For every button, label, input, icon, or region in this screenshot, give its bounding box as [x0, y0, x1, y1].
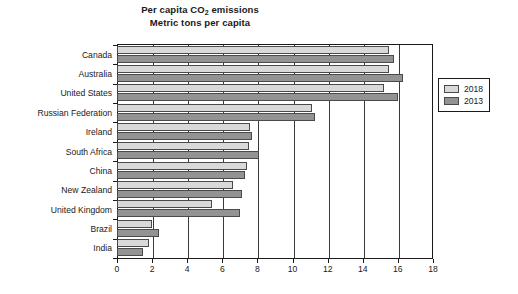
- bar-2013: [117, 229, 159, 237]
- bar-group: [117, 181, 433, 200]
- bar-2013: [117, 248, 143, 256]
- bar-group: [117, 220, 433, 239]
- bar-2013: [117, 171, 245, 179]
- title-text-post: emissions: [209, 4, 259, 15]
- x-axis-tick-label: 4: [175, 264, 199, 274]
- x-axis-tick-label: 16: [386, 264, 410, 274]
- bar-2018: [117, 104, 312, 112]
- chart-container: Per capita CO2 emissions Metric tons per…: [0, 0, 518, 294]
- bar-2018: [117, 142, 249, 150]
- x-axis-tick: [328, 259, 329, 263]
- bar-group: [117, 65, 433, 84]
- bar-2013: [117, 151, 259, 159]
- bar-2018: [117, 220, 152, 228]
- bar-2013: [117, 132, 252, 140]
- x-axis-tick: [152, 259, 153, 263]
- y-axis-label: United Kingdom: [0, 205, 112, 215]
- bar-2013: [117, 55, 394, 63]
- x-axis-tick: [398, 259, 399, 263]
- x-axis: 024681012141618: [117, 259, 433, 279]
- x-axis-tick-label: 2: [140, 264, 164, 274]
- y-axis-label: South Africa: [0, 147, 112, 157]
- x-axis-tick: [222, 259, 223, 263]
- legend-swatch-2013: [444, 97, 459, 105]
- bar-2018: [117, 200, 212, 208]
- bar-group: [117, 239, 433, 258]
- x-axis-tick: [293, 259, 294, 263]
- legend-label-2013: 2013: [464, 96, 483, 106]
- x-axis-tick-label: 6: [210, 264, 234, 274]
- y-axis-label: Canada: [0, 50, 112, 60]
- bar-2013: [117, 113, 315, 121]
- y-axis-label: Ireland: [0, 127, 112, 137]
- bar-2018: [117, 181, 233, 189]
- chart-title-line1: Per capita CO2 emissions: [141, 4, 259, 15]
- legend-item-2018: 2018: [444, 83, 483, 95]
- y-axis-category-labels: CanadaAustraliaUnited StatesRussian Fede…: [0, 45, 112, 258]
- x-axis-tick-label: 18: [421, 264, 445, 274]
- chart-subtitle: Metric tons per capita: [0, 17, 400, 29]
- x-axis-tick-label: 10: [281, 264, 305, 274]
- y-axis-label: Australia: [0, 69, 112, 79]
- bar-group: [117, 162, 433, 181]
- bar-group: [117, 104, 433, 123]
- bar-group: [117, 123, 433, 142]
- x-axis-tick: [433, 259, 434, 263]
- title-text-pre: Per capita CO: [141, 4, 205, 15]
- bar-group: [117, 84, 433, 103]
- bar-2013: [117, 74, 403, 82]
- bar-2018: [117, 123, 250, 131]
- bar-group: [117, 142, 433, 161]
- y-axis-label: United States: [0, 88, 112, 98]
- bar-group: [117, 200, 433, 219]
- bar-2013: [117, 190, 242, 198]
- bar-2018: [117, 65, 389, 73]
- bar-group: [117, 46, 433, 65]
- x-axis-tick: [187, 259, 188, 263]
- x-axis-tick-label: 14: [351, 264, 375, 274]
- bar-2018: [117, 239, 149, 247]
- bar-2013: [117, 209, 240, 217]
- x-axis-tick: [363, 259, 364, 263]
- x-axis-tick: [257, 259, 258, 263]
- bar-2013: [117, 93, 398, 101]
- y-axis-label: India: [0, 243, 112, 253]
- y-axis-label: New Zealand: [0, 185, 112, 195]
- x-axis-tick-label: 12: [316, 264, 340, 274]
- co2-subscript: 2: [205, 9, 209, 16]
- bar-2018: [117, 46, 389, 54]
- chart-legend: 2018 2013: [438, 78, 490, 112]
- legend-label-2018: 2018: [464, 84, 483, 94]
- chart-title: Per capita CO2 emissions Metric tons per…: [0, 4, 400, 29]
- x-axis-tick-label: 8: [245, 264, 269, 274]
- bar-2018: [117, 162, 247, 170]
- bar-2018: [117, 84, 384, 92]
- legend-item-2013: 2013: [444, 95, 483, 107]
- y-axis-label: China: [0, 166, 112, 176]
- y-axis-label: Brazil: [0, 224, 112, 234]
- legend-swatch-2018: [444, 85, 459, 93]
- bars-layer: [117, 45, 433, 258]
- y-axis-label: Russian Federation: [0, 108, 112, 118]
- x-axis-tick: [117, 259, 118, 263]
- x-axis-tick-label: 0: [105, 264, 129, 274]
